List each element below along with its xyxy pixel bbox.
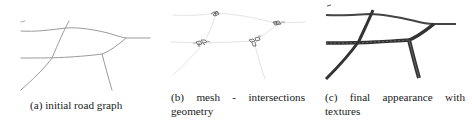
intersection-mesh-cluster-left [193,40,210,47]
caption-line-2: geometry [171,104,305,118]
caption-word: mesh [196,90,220,104]
mesh-intersections-figure [155,0,315,95]
caption-initial-road-graph: (a) initial road graph [30,98,150,112]
caption-final-appearance-textures: (c) final appearance with textures [325,90,465,118]
caption-line-1: (b) mesh - intersections [171,90,305,104]
caption-word: - [232,90,236,104]
caption-mesh-intersections-geometry: (b) mesh - intersections geometry [171,90,305,118]
caption-line-1: (c) final appearance with [325,90,465,104]
panel-initial-road-graph [0,0,160,95]
caption-label: (b) [171,90,184,104]
caption-word: appearance [383,90,433,104]
textured-roads-figure [310,0,472,95]
caption-text: (a) initial road graph [30,99,122,111]
panel-final-appearance-textures [310,0,472,95]
road-graph-figure [0,0,160,95]
caption-word: final [350,90,371,104]
caption-word: intersections [248,90,305,104]
caption-label: (c) [325,90,337,104]
panel-mesh-intersections-geometry [155,0,315,95]
caption-word: with [445,90,465,104]
caption-line-2: textures [325,104,465,118]
